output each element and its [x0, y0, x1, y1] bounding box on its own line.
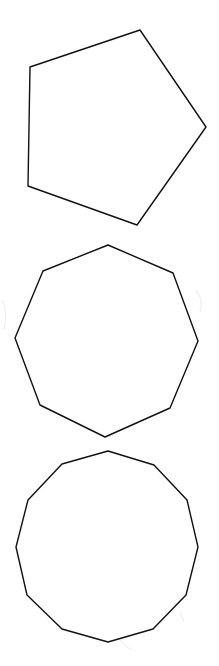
paper-scratch: [2, 300, 6, 330]
polygon-diagram: [0, 0, 219, 666]
dodecagon-shape: [16, 451, 198, 642]
paper-scratch: [196, 290, 201, 312]
pentagon-shape: [28, 30, 206, 225]
paper-scratch: [120, 640, 132, 650]
octagon-shape: [15, 245, 198, 437]
paper-scratch: [180, 612, 184, 622]
